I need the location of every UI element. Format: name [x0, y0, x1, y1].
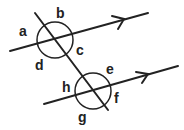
label-c: c — [76, 42, 84, 58]
label-h: h — [62, 79, 71, 95]
angle-diagram: a b c d e f g h — [0, 0, 184, 130]
label-e: e — [106, 61, 114, 77]
label-g: g — [78, 109, 87, 125]
label-d: d — [35, 57, 44, 73]
label-f: f — [114, 90, 119, 106]
label-b: b — [56, 5, 65, 21]
label-a: a — [19, 23, 27, 39]
